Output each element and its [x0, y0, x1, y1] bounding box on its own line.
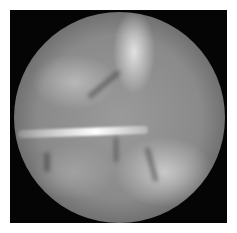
light-reflection [18, 126, 148, 139]
image-frame [10, 10, 227, 223]
tissue-shadow [114, 137, 118, 162]
tissue-shadow [44, 152, 50, 172]
tissue-shadow [145, 147, 159, 182]
arthroscopic-view [14, 12, 225, 223]
tissue-shadow [87, 70, 121, 100]
